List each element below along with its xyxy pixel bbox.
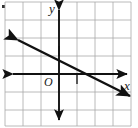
x-axis-label: x bbox=[124, 79, 130, 92]
coordinate-plane-graph bbox=[0, 0, 138, 128]
figure-container: y x O bbox=[0, 0, 138, 128]
y-axis-label: y bbox=[49, 2, 55, 15]
origin-label: O bbox=[44, 76, 53, 88]
